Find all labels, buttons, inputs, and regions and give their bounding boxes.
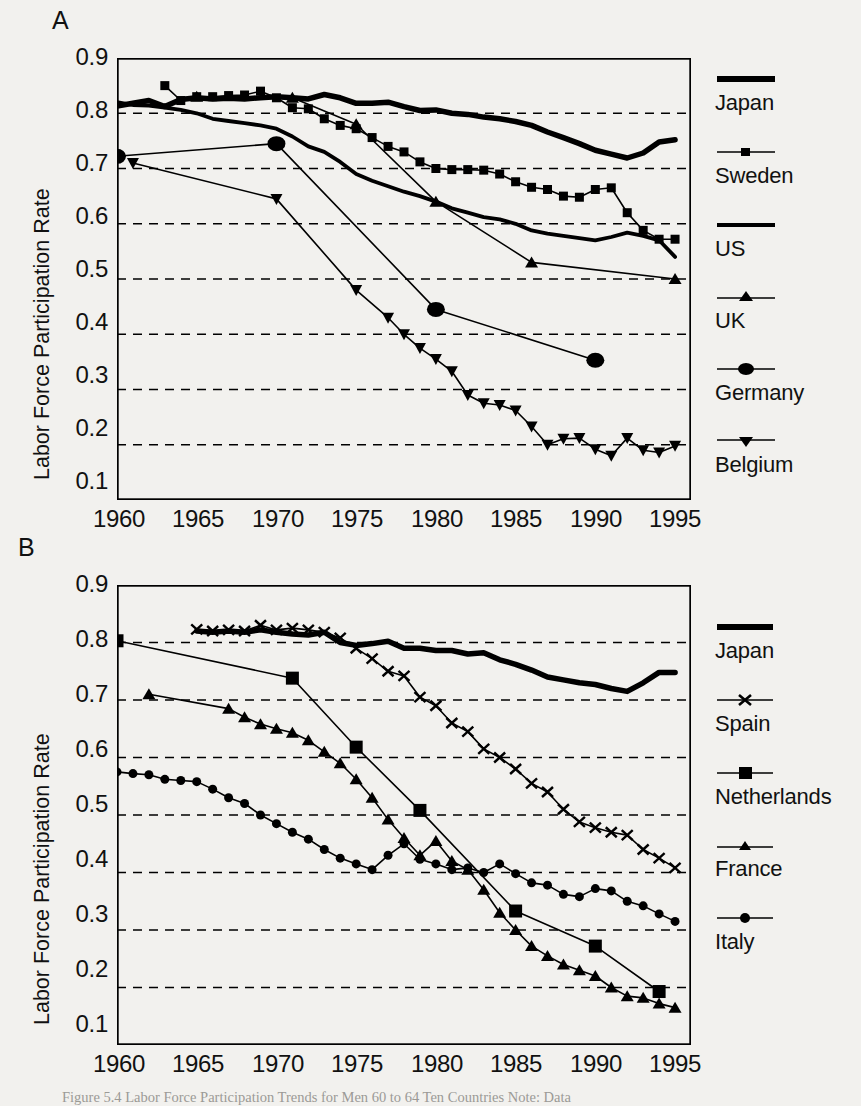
panel-b-xtick-1965: 1965 — [158, 1050, 238, 1078]
data-point-marker — [623, 897, 632, 906]
data-point-marker — [208, 785, 217, 794]
data-point-marker — [240, 91, 249, 100]
data-point-marker — [446, 718, 457, 728]
data-point-marker — [240, 799, 249, 808]
data-point-marker — [573, 964, 586, 975]
legend-swatch-uk — [715, 290, 777, 304]
data-point-marker — [605, 451, 617, 462]
data-point-marker — [607, 183, 616, 192]
data-point-marker — [413, 804, 426, 817]
panel-b-ytick-0_1: 0.1 — [36, 1010, 108, 1038]
data-point-marker — [575, 193, 584, 202]
panel-b-ytick-0_5: 0.5 — [36, 790, 108, 818]
data-point-marker — [591, 884, 600, 893]
legend-label-spain: Spain — [715, 711, 770, 737]
data-point-marker — [224, 91, 233, 100]
legend-label-germany: Germany — [715, 380, 804, 406]
data-point-marker — [288, 103, 297, 112]
data-point-marker — [653, 985, 666, 998]
panel-b-ytick-0_3: 0.3 — [36, 900, 108, 928]
data-point-marker — [671, 917, 680, 926]
panel-b-xtick-1990: 1990 — [556, 1050, 636, 1078]
data-point-marker — [671, 235, 680, 244]
series-sweden — [160, 81, 679, 244]
data-point-marker — [431, 859, 440, 868]
panel-b-xtick-1995: 1995 — [635, 1050, 715, 1078]
data-point-marker — [607, 886, 616, 895]
data-point-marker — [430, 354, 442, 365]
series-france — [142, 688, 681, 1012]
legend-label-sweden: Sweden — [715, 163, 793, 189]
data-point-marker — [543, 881, 552, 890]
data-point-marker — [669, 441, 681, 452]
data-point-marker — [415, 855, 424, 864]
legend-label-belgium: Belgium — [715, 452, 793, 478]
data-point-marker — [427, 302, 445, 317]
data-point-marker — [493, 907, 506, 918]
figure-caption: Figure 5.4 Labor Force Participation Tre… — [62, 1088, 852, 1106]
panel-a-ytick-0_6: 0.6 — [36, 202, 108, 230]
data-point-marker — [352, 859, 361, 868]
data-point-marker — [639, 901, 648, 910]
data-point-marker — [591, 185, 600, 194]
series-japan — [197, 630, 675, 692]
data-point-marker — [589, 940, 602, 953]
data-point-marker — [621, 990, 634, 1001]
data-point-marker — [495, 170, 504, 179]
panel-a-letter: A — [52, 6, 69, 35]
panel-b-xtick-1960: 1960 — [79, 1050, 159, 1078]
data-point-marker — [267, 136, 285, 151]
panel-a-ytick-0_2: 0.2 — [36, 414, 108, 442]
data-point-marker — [368, 865, 377, 874]
data-point-marker — [446, 366, 458, 377]
series-line — [133, 163, 675, 456]
legend-swatch-japan — [715, 72, 777, 86]
series-line — [197, 630, 675, 692]
data-point-marker — [400, 147, 409, 156]
data-point-marker — [429, 835, 442, 846]
data-point-marker — [334, 757, 347, 768]
data-point-marker — [589, 970, 602, 981]
legend-swatch-germany — [715, 362, 777, 376]
legend-label-uk: UK — [715, 308, 745, 334]
series-belgium — [127, 158, 681, 462]
series-line — [197, 625, 675, 868]
data-point-marker — [511, 177, 520, 186]
data-point-marker — [653, 998, 666, 1009]
data-point-marker — [384, 851, 393, 860]
data-point-marker — [430, 701, 441, 711]
legend-swatch-italy — [715, 911, 777, 925]
data-point-marker — [336, 854, 345, 863]
data-point-marker — [509, 905, 522, 918]
panel-b-ytick-0_8: 0.8 — [36, 625, 108, 653]
data-point-marker — [288, 828, 297, 837]
data-point-marker — [462, 390, 474, 401]
data-point-marker — [414, 343, 426, 354]
panel-b-plot-area — [117, 585, 691, 1045]
data-point-marker — [478, 744, 489, 754]
series-italy — [117, 767, 680, 926]
series-netherlands — [117, 634, 666, 998]
data-point-marker — [463, 863, 472, 872]
panel-b-xtick-1975: 1975 — [317, 1050, 397, 1078]
data-point-marker — [542, 787, 553, 797]
data-point-marker — [527, 183, 536, 192]
data-point-marker — [399, 671, 410, 681]
data-point-marker — [447, 865, 456, 874]
panel-b-ytick-0_2: 0.2 — [36, 955, 108, 983]
data-point-marker — [655, 909, 664, 918]
data-point-marker — [160, 81, 169, 90]
panel-a: A Labor Force Participation Rate 0.9 0.8… — [0, 0, 861, 550]
panel-a-ytick-0_7: 0.7 — [36, 149, 108, 177]
data-point-marker — [117, 149, 126, 164]
data-point-marker — [304, 835, 313, 844]
data-point-marker — [445, 855, 458, 866]
legend-swatch-japan-b — [715, 620, 777, 634]
panel-b-xtick-1985: 1985 — [476, 1050, 556, 1078]
data-point-marker — [526, 778, 537, 788]
data-point-marker — [559, 890, 568, 899]
data-point-marker — [350, 118, 363, 129]
panel-a-ytick-0_8: 0.8 — [36, 96, 108, 124]
data-point-marker — [318, 746, 331, 757]
series-germany — [117, 136, 604, 368]
